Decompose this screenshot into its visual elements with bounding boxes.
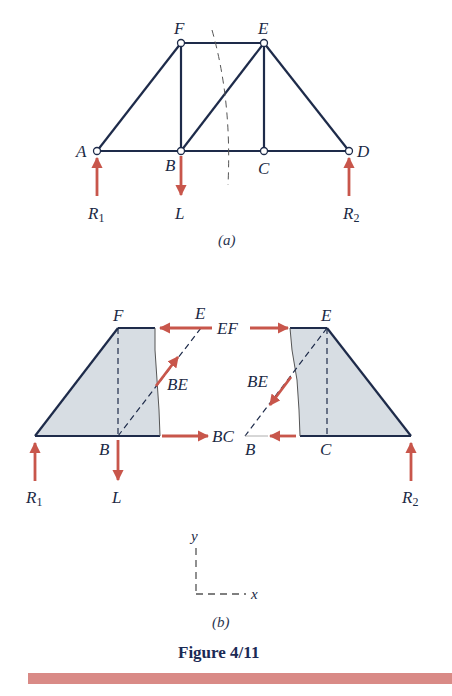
coordinate-axes: y x: [189, 528, 258, 602]
label-be-left: BE: [167, 375, 188, 394]
label-c-right: C: [320, 440, 332, 459]
x-axis-label: x: [250, 586, 258, 602]
r1-label: R1: [87, 204, 104, 225]
label-e-right: E: [320, 306, 332, 325]
truss-a: A B C D F E R1 L R2 (a): [75, 19, 370, 249]
label-b-right: B: [245, 440, 256, 459]
part-a-caption: (a): [218, 232, 236, 249]
r1-label-b: R1: [25, 488, 42, 509]
joint-a-label: A: [75, 142, 87, 161]
label-be-right: BE: [247, 372, 268, 391]
y-axis-label: y: [189, 528, 198, 544]
label-e: E: [194, 304, 206, 323]
joint-b-label: B: [165, 156, 176, 175]
free-body-right: E BE B C R2: [245, 306, 418, 509]
label-bc: BC: [212, 427, 234, 446]
r2-label-b: R2: [401, 488, 418, 509]
joint-f-label: F: [173, 19, 185, 38]
label-ef: EF: [216, 319, 238, 338]
load-l-label-b: L: [111, 488, 121, 507]
truss-figure: A B C D F E R1 L R2 (a) F E EF BE BC B R…: [0, 0, 452, 696]
free-body-left: F E EF BE BC B R1 L: [25, 304, 238, 509]
figure-caption: Figure 4/11: [178, 643, 259, 662]
label-f: F: [112, 306, 124, 325]
r2-label: R2: [342, 204, 359, 225]
joint-c-label: C: [258, 159, 270, 178]
force-be-arrow-right: [270, 377, 291, 405]
joint-e-label: E: [257, 19, 269, 38]
label-b-left: B: [99, 440, 110, 459]
joint-d-label: D: [356, 142, 370, 161]
caption-bar: [28, 673, 452, 684]
part-b-caption: (b): [212, 614, 230, 631]
load-l-label: L: [174, 204, 184, 223]
